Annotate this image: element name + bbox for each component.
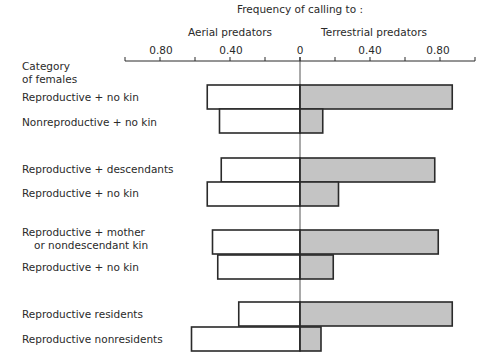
bar-aerial [192,327,301,351]
bar-aerial [239,302,300,326]
bar-aerial [207,182,300,206]
bar-terrestrial [300,85,452,109]
bar-aerial [221,158,300,182]
bar-aerial [213,230,301,254]
bar-terrestrial [300,255,333,279]
bar-aerial [220,109,301,133]
bar-terrestrial [300,182,339,206]
bar-aerial [218,255,300,279]
chart-plot [0,0,492,364]
bar-terrestrial [300,230,438,254]
bar-terrestrial [300,327,321,351]
bar-group [192,85,453,351]
bar-terrestrial [300,158,435,182]
x-axis [125,57,475,61]
bar-aerial [207,85,300,109]
bar-terrestrial [300,109,323,133]
bar-terrestrial [300,302,452,326]
